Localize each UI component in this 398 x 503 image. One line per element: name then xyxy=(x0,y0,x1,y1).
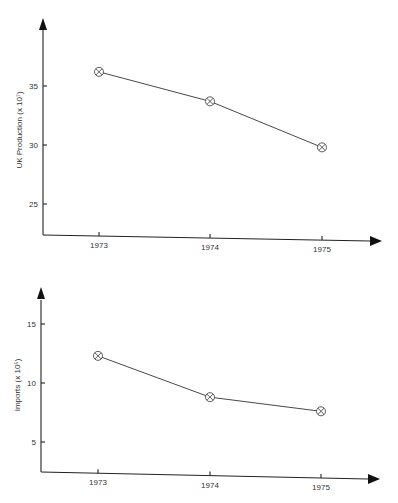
chart-imports: 51015 197319741975 Imports (x 10⁵) xyxy=(13,287,380,492)
data-point-marker-icon xyxy=(95,67,104,76)
y-ticks: 253035 xyxy=(29,82,47,209)
y-tick-label: 15 xyxy=(27,320,36,329)
series-line xyxy=(95,67,327,152)
data-point-marker-icon xyxy=(206,97,215,106)
x-ticks: 197319741975 xyxy=(89,469,330,492)
series-path xyxy=(98,356,321,411)
x-tick-label: 1975 xyxy=(313,245,331,254)
chart-uk-production: 253035 197319741975 UK Production (x 10⁷… xyxy=(15,18,382,254)
y-tick-label: 35 xyxy=(29,82,38,91)
series-line xyxy=(94,351,326,415)
data-point-marker-icon xyxy=(94,351,103,360)
series-path xyxy=(99,72,322,148)
y-ticks: 51015 xyxy=(27,320,45,447)
charts-canvas: 253035 197319741975 UK Production (x 10⁷… xyxy=(0,0,398,503)
x-tick-label: 1974 xyxy=(201,481,219,490)
x-ticks: 197319741975 xyxy=(90,232,331,254)
y-tick-label: 30 xyxy=(29,141,38,150)
data-point-marker-icon xyxy=(318,143,327,152)
y-tick-label: 5 xyxy=(32,438,37,447)
x-tick-label: 1973 xyxy=(89,478,107,487)
y-tick-label: 25 xyxy=(29,200,38,209)
data-point-marker-icon xyxy=(206,393,215,402)
x-tick-label: 1973 xyxy=(90,241,108,250)
x-axis-arrow-icon xyxy=(368,474,380,484)
y-axis-arrow-icon xyxy=(39,18,47,30)
y-axis-arrow-icon xyxy=(37,287,45,299)
data-point-marker-icon xyxy=(317,407,326,416)
x-tick-label: 1975 xyxy=(312,483,330,492)
x-tick-label: 1974 xyxy=(201,243,219,252)
x-axis-arrow-icon xyxy=(370,236,382,246)
y-axis-title: UK Production (x 10⁷) xyxy=(15,91,24,168)
y-tick-label: 10 xyxy=(27,379,36,388)
y-axis-title: Imports (x 10⁵) xyxy=(13,358,22,411)
